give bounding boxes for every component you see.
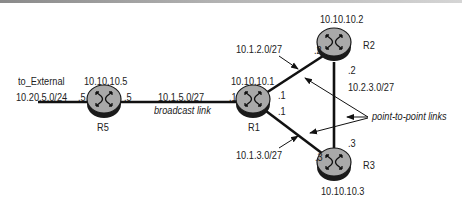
r5-r1-subnet: 10.1.5.0/27 xyxy=(158,92,204,103)
r1-r3-interface-r1: .1 xyxy=(278,106,286,117)
r2-r3-subnet: 10.2.3.0/27 xyxy=(348,82,394,93)
r1-r3-subnet: 10.1.3.0/27 xyxy=(236,150,282,161)
r1-loopback: 10.10.10.1 xyxy=(231,76,274,87)
r3-name: R3 xyxy=(363,160,375,171)
broadcast-link-label: broadcast link xyxy=(154,105,211,116)
point-to-point-label: point-to-point links xyxy=(372,111,447,122)
external-subnet: 10.20.5.0/24 xyxy=(16,92,67,103)
r1-r2-interface-r2: .2 xyxy=(314,45,322,56)
network-diagram xyxy=(0,0,462,207)
link-r1-r2 xyxy=(266,56,323,93)
external-label: to_External xyxy=(18,76,65,87)
r3-loopback: 10.10.10.3 xyxy=(321,186,364,197)
r2-loopback: 10.10.10.2 xyxy=(320,14,363,25)
r1-r2-interface-r1: .1 xyxy=(278,90,286,101)
link-r1-r3 xyxy=(266,111,323,154)
r1-r3-interface-r3: .3 xyxy=(315,152,323,163)
r1-name: R1 xyxy=(248,122,260,133)
r5-ext-interface: .5 xyxy=(78,92,86,103)
r5-r1-interface-r1: .1 xyxy=(229,92,237,103)
r5-name: R5 xyxy=(97,122,109,133)
r2-r3-interface-r2: .2 xyxy=(348,65,356,76)
r2-name: R2 xyxy=(363,40,375,51)
r1-r2-subnet: 10.1.2.0/27 xyxy=(236,44,282,55)
router-r2-icon xyxy=(317,28,351,61)
r2-r3-interface-r3: .3 xyxy=(348,138,356,149)
r5-loopback: 10.10.10.5 xyxy=(84,76,127,87)
router-r1-icon xyxy=(236,85,270,118)
router-r5-icon xyxy=(87,85,121,118)
r5-r1-interface-r5: .5 xyxy=(124,92,132,103)
